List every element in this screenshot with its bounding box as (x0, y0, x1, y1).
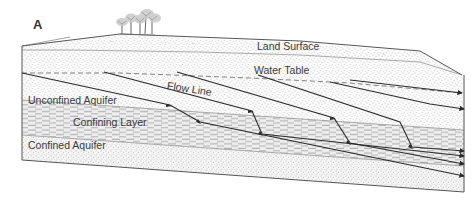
unconfined-aquifer-label: Unconfined Aquifer (28, 95, 117, 106)
trees-icon (116, 9, 161, 34)
confining-layer-label: Confining Layer (73, 117, 147, 128)
grass-mark-icon: ᵥ (346, 48, 347, 53)
water-table-label: Water Table (254, 65, 309, 76)
grass-mark-icon: ᵥ (383, 51, 384, 56)
groundwater-flow-diagram: A Land Surface Water Table Flow Line Unc… (0, 0, 474, 206)
confined-aquifer-label: Confined Aquifer (28, 140, 106, 151)
grass-mark-icon: ᵥ (165, 39, 166, 44)
panel-letter: A (33, 18, 42, 31)
grass-mark-icon: ᵥᵥ (110, 38, 113, 43)
grass-mark-icon: ᵥᵥ (192, 40, 195, 45)
grass-mark-icon: ᵥ (428, 58, 429, 63)
land-surface-label: Land Surface (257, 41, 319, 52)
